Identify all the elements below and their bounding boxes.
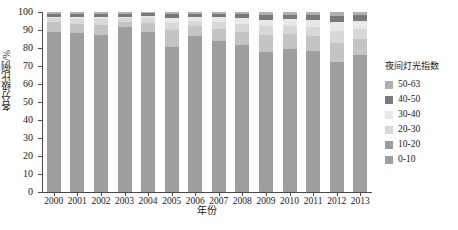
bar-segment[interactable]: [118, 27, 132, 192]
bar-segment[interactable]: [47, 22, 61, 32]
bar-segment[interactable]: [212, 14, 226, 18]
bar-segment[interactable]: [94, 35, 108, 193]
bar-segment[interactable]: [70, 33, 84, 192]
bar-segment[interactable]: [47, 32, 61, 192]
bar-segment[interactable]: [330, 22, 344, 31]
bar-segment[interactable]: [235, 14, 249, 19]
legend-item[interactable]: 0-10: [385, 152, 457, 167]
bar-segment[interactable]: [330, 43, 344, 62]
bar[interactable]: [259, 12, 273, 192]
legend-item[interactable]: 30-40: [385, 107, 457, 122]
bar-segment[interactable]: [94, 17, 108, 20]
bar[interactable]: [353, 12, 367, 192]
bar-segment[interactable]: [306, 20, 320, 27]
bar-segment[interactable]: [283, 15, 297, 20]
bar-segment[interactable]: [283, 12, 297, 15]
bar-segment[interactable]: [94, 12, 108, 14]
bar-segment[interactable]: [259, 15, 273, 20]
bar-segment[interactable]: [353, 12, 367, 15]
bar-segment[interactable]: [353, 55, 367, 192]
bar-segment[interactable]: [94, 25, 108, 35]
bar-segment[interactable]: [94, 19, 108, 24]
bar-segment[interactable]: [353, 29, 367, 39]
legend-item[interactable]: 10-20: [385, 137, 457, 152]
bar-segment[interactable]: [118, 18, 132, 22]
bar-segment[interactable]: [47, 18, 61, 22]
bar-segment[interactable]: [188, 21, 202, 26]
bar-segment[interactable]: [165, 14, 179, 19]
bar[interactable]: [235, 12, 249, 192]
bar[interactable]: [165, 12, 179, 192]
bar-segment[interactable]: [212, 17, 226, 22]
bar-segment[interactable]: [353, 15, 367, 21]
bar-segment[interactable]: [235, 18, 249, 23]
bar[interactable]: [306, 12, 320, 192]
bar-segment[interactable]: [141, 12, 155, 13]
bar-segment[interactable]: [165, 23, 179, 30]
legend-item[interactable]: 20-30: [385, 122, 457, 137]
bar-segment[interactable]: [188, 36, 202, 192]
bar-segment[interactable]: [306, 51, 320, 192]
bar-segment[interactable]: [188, 12, 202, 14]
bar-segment[interactable]: [235, 24, 249, 32]
bar-segment[interactable]: [259, 35, 273, 51]
bar-segment[interactable]: [94, 14, 108, 17]
bar-segment[interactable]: [70, 12, 84, 14]
bar-segment[interactable]: [330, 16, 344, 22]
bar-segment[interactable]: [353, 21, 367, 29]
bar-segment[interactable]: [165, 12, 179, 14]
bar-segment[interactable]: [306, 27, 320, 36]
bar-segment[interactable]: [235, 45, 249, 192]
bar[interactable]: [188, 12, 202, 192]
bar-segment[interactable]: [306, 15, 320, 20]
bar[interactable]: [47, 12, 61, 192]
bar-segment[interactable]: [141, 32, 155, 192]
bar-segment[interactable]: [259, 26, 273, 35]
bar-segment[interactable]: [353, 39, 367, 55]
bar-segment[interactable]: [212, 29, 226, 41]
bar-segment[interactable]: [306, 36, 320, 50]
bar-segment[interactable]: [283, 49, 297, 192]
bar-segment[interactable]: [165, 47, 179, 192]
bar-segment[interactable]: [47, 17, 61, 19]
bar[interactable]: [283, 12, 297, 192]
bar-segment[interactable]: [259, 12, 273, 15]
bar-segment[interactable]: [47, 12, 61, 14]
bar-segment[interactable]: [188, 26, 202, 36]
bar-segment[interactable]: [70, 19, 84, 24]
bar-segment[interactable]: [141, 16, 155, 19]
bar-segment[interactable]: [283, 26, 297, 34]
bar-segment[interactable]: [165, 30, 179, 47]
legend-item[interactable]: 40-50: [385, 92, 457, 107]
legend-item[interactable]: 50-63: [385, 77, 457, 92]
bar-segment[interactable]: [70, 14, 84, 17]
bar-segment[interactable]: [47, 14, 61, 17]
bar-segment[interactable]: [118, 22, 132, 27]
bar-segment[interactable]: [141, 18, 155, 23]
bar[interactable]: [70, 12, 84, 192]
bar-segment[interactable]: [118, 17, 132, 19]
bar-segment[interactable]: [283, 19, 297, 25]
bar[interactable]: [141, 12, 155, 192]
bar-segment[interactable]: [212, 12, 226, 14]
bar-segment[interactable]: [141, 13, 155, 16]
bar-segment[interactable]: [330, 12, 344, 16]
bar-segment[interactable]: [306, 12, 320, 15]
bar-segment[interactable]: [235, 32, 249, 46]
bar[interactable]: [330, 12, 344, 192]
bar-segment[interactable]: [141, 23, 155, 32]
bar-segment[interactable]: [118, 14, 132, 17]
bar-segment[interactable]: [330, 62, 344, 193]
bar-segment[interactable]: [70, 17, 84, 20]
bar-segment[interactable]: [70, 24, 84, 33]
bar-segment[interactable]: [165, 18, 179, 23]
bar[interactable]: [212, 12, 226, 192]
bar-segment[interactable]: [188, 17, 202, 21]
bar-segment[interactable]: [259, 52, 273, 192]
bar-segment[interactable]: [235, 12, 249, 14]
bar-segment[interactable]: [118, 12, 132, 14]
bar-segment[interactable]: [212, 22, 226, 29]
bar-segment[interactable]: [330, 31, 344, 43]
bar[interactable]: [118, 12, 132, 192]
bar-segment[interactable]: [212, 41, 226, 192]
